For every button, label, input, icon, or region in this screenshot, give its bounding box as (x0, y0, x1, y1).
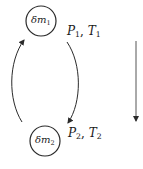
arrow-down-right-arc (67, 42, 78, 123)
node-symbol: δm (31, 14, 47, 25)
pressure-symbol: P (68, 126, 76, 140)
node-subscript: 1 (47, 19, 51, 27)
temperature-subscript: 1 (96, 30, 101, 39)
node-label-m2: δm2 (35, 135, 55, 146)
node-subscript: 2 (51, 139, 55, 147)
node-label-m1: δm1 (31, 15, 51, 26)
state-label-1: P1, T1 (67, 25, 101, 39)
temperature-symbol: T (88, 24, 96, 38)
temperature-symbol: T (89, 126, 97, 140)
node-symbol: δm (35, 134, 51, 145)
separator: , (80, 24, 88, 38)
arrow-up-left-arc (12, 40, 24, 122)
temperature-subscript: 2 (97, 132, 102, 141)
state-label-2: P2, T2 (68, 127, 102, 141)
separator: , (81, 126, 89, 140)
pressure-symbol: P (67, 24, 75, 38)
